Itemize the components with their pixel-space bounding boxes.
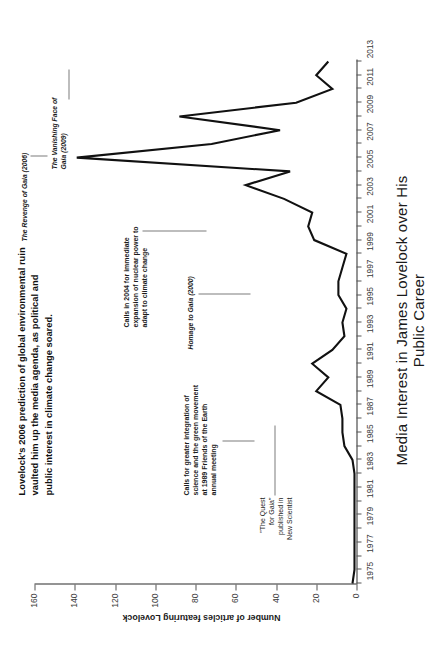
leader-line-friends-of-the-earth bbox=[222, 440, 254, 441]
x-tick-mark bbox=[356, 335, 361, 336]
x-tick-label: 2001 bbox=[364, 204, 374, 222]
chart-page: 160140120100806040200 197519771979198119… bbox=[0, 0, 427, 645]
x-tick-label: 1991 bbox=[364, 342, 374, 360]
y-tick-mark bbox=[34, 584, 35, 590]
x-tick-mark bbox=[356, 445, 361, 446]
y-tick-label: 0 bbox=[351, 593, 360, 637]
leader-line-quest-for-gaia bbox=[274, 425, 275, 495]
chart-caption: Lovelock's 2006 prediction of global env… bbox=[14, 245, 54, 495]
annotation-quest-for-gaia: "The Quest for Gaia" published in New Sc… bbox=[258, 497, 294, 557]
annotation-nuclear-power: Calls in 2004 for immediate expansion of… bbox=[122, 209, 149, 327]
x-tick-mark bbox=[356, 527, 361, 528]
x-tick-label: 1985 bbox=[364, 424, 374, 442]
annotation-friends-of-the-earth: Calls for greater integration of science… bbox=[182, 379, 218, 495]
x-tick-mark bbox=[356, 376, 361, 377]
x-tick-mark bbox=[356, 87, 361, 88]
chart-figure: 160140120100806040200 197519771979198119… bbox=[0, 0, 427, 645]
chart-title: Media Interest in James Lovelock over Hi… bbox=[392, 155, 426, 485]
x-tick-mark bbox=[356, 184, 361, 185]
x-tick-label: 2009 bbox=[364, 94, 374, 112]
x-tick-mark bbox=[356, 472, 361, 473]
annotation-revenge-of-gaia: The Revenge of Gaia (2006) bbox=[20, 121, 29, 241]
x-tick-mark bbox=[356, 266, 361, 267]
x-tick-mark bbox=[356, 170, 361, 171]
x-tick-label: 2005 bbox=[364, 149, 374, 167]
x-tick-mark bbox=[356, 101, 361, 102]
x-tick-mark bbox=[356, 513, 361, 514]
x-tick-label: 1979 bbox=[364, 506, 374, 524]
x-tick-label: 1975 bbox=[364, 561, 374, 579]
x-tick-mark bbox=[356, 417, 361, 418]
x-tick-mark bbox=[356, 582, 361, 583]
y-tick-mark bbox=[74, 584, 75, 590]
x-tick-label: 2007 bbox=[364, 122, 374, 140]
x-tick-label: 1977 bbox=[364, 534, 374, 552]
x-tick-mark bbox=[356, 294, 361, 295]
x-tick-mark bbox=[356, 458, 361, 459]
x-tick-label: 1997 bbox=[364, 259, 374, 277]
x-tick-label: 1999 bbox=[364, 232, 374, 250]
x-tick-mark bbox=[356, 142, 361, 143]
x-tick-mark bbox=[356, 211, 361, 212]
x-tick-mark bbox=[356, 348, 361, 349]
leader-line-homage-to-gaia bbox=[198, 293, 250, 294]
x-tick-label: 2011 bbox=[364, 67, 374, 85]
x-tick-label: 2013 bbox=[364, 39, 374, 57]
x-tick-mark bbox=[356, 225, 361, 226]
y-tick-mark bbox=[276, 584, 277, 590]
x-tick-mark bbox=[356, 197, 361, 198]
x-tick-mark bbox=[356, 390, 361, 391]
x-tick-mark bbox=[356, 239, 361, 240]
x-tick-mark bbox=[356, 431, 361, 432]
y-tick-label: 20 bbox=[311, 593, 320, 637]
x-tick-mark bbox=[356, 321, 361, 322]
x-tick-label: 1993 bbox=[364, 314, 374, 332]
y-tick-mark bbox=[235, 584, 236, 590]
y-tick-mark bbox=[356, 584, 357, 590]
x-tick-mark bbox=[356, 252, 361, 253]
y-tick-mark bbox=[316, 584, 317, 590]
x-tick-mark bbox=[356, 403, 361, 404]
x-tick-mark bbox=[356, 280, 361, 281]
y-tick-mark bbox=[115, 584, 116, 590]
annotation-homage-to-gaia: Homage to Gaia (2000) bbox=[186, 245, 195, 349]
y-tick-mark bbox=[195, 584, 196, 590]
leader-line-nuclear-power bbox=[142, 230, 206, 231]
x-tick-mark bbox=[356, 500, 361, 501]
x-tick-mark bbox=[356, 60, 361, 61]
annotation-vanishing-face-of-gaia: The Vanishing Face of Gaia (2009) bbox=[50, 85, 67, 169]
x-tick-mark bbox=[356, 129, 361, 130]
x-tick-mark bbox=[356, 156, 361, 157]
x-tick-mark bbox=[356, 541, 361, 542]
x-tick-label: 1983 bbox=[364, 451, 374, 469]
y-tick-mark bbox=[155, 584, 156, 590]
x-tick-label: 1995 bbox=[364, 287, 374, 305]
x-tick-mark bbox=[356, 115, 361, 116]
x-tick-mark bbox=[356, 362, 361, 363]
y-tick-label: 140 bbox=[69, 593, 78, 637]
y-tick-label: 160 bbox=[29, 593, 38, 637]
x-tick-mark bbox=[356, 74, 361, 75]
y-axis-title: Number of articles featuring Lovelock bbox=[91, 612, 311, 622]
x-tick-label: 1981 bbox=[364, 479, 374, 497]
leader-line-vanishing-face-of-gaia bbox=[68, 69, 69, 99]
x-tick-label: 2003 bbox=[364, 177, 374, 195]
x-tick-mark bbox=[356, 568, 361, 569]
x-tick-label: 1989 bbox=[364, 369, 374, 387]
x-tick-mark bbox=[356, 486, 361, 487]
leader-line-revenge-of-gaia bbox=[30, 155, 47, 156]
x-tick-mark bbox=[356, 307, 361, 308]
x-tick-mark bbox=[356, 555, 361, 556]
x-tick-label: 1987 bbox=[364, 397, 374, 415]
